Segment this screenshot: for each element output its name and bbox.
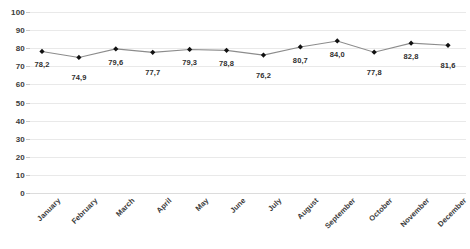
x-axis-tick-label: April [154,196,173,215]
data-point-marker [372,50,377,55]
y-axis-tick-label: 70 [16,62,25,71]
x-axis-tick-label: October [367,196,394,223]
data-point-label: 84,0 [330,50,345,59]
data-point-label: 78,8 [219,59,234,68]
x-axis-tick-label: May [193,196,210,213]
plot-area: 1009080706050403020100 78,274,979,677,77… [30,12,466,193]
data-point-label: 82,8 [404,52,419,61]
y-axis-tick-label: 10 [16,170,25,179]
y-axis-tick-label: 20 [16,152,25,161]
data-point-marker [187,47,192,52]
data-point-label: 76,2 [256,71,271,80]
data-point-marker [261,52,266,57]
data-point-marker [335,38,340,43]
series-polyline [42,41,448,57]
series-markers [39,38,450,60]
data-point-marker [224,48,229,53]
data-point-marker [150,50,155,55]
data-point-label: 81,6 [441,61,456,70]
x-axis-tick-label: July [267,196,284,213]
x-axis-tick-label: March [114,196,136,218]
data-point-marker [39,49,44,54]
y-axis-tick-label: 90 [16,26,25,35]
x-axis-tick-label: December [436,196,469,229]
y-axis-tick-label: 0 [20,189,25,198]
data-point-label: 74,9 [71,73,86,82]
x-axis-tick-label: November [399,196,432,229]
series-line [30,12,466,193]
y-axis-tick-label: 40 [16,116,25,125]
x-axis-tick-label: August [296,196,321,221]
data-point-marker [298,44,303,49]
line-chart: 1009080706050403020100 78,274,979,677,77… [0,0,470,249]
y-axis-tick-label: 80 [16,44,25,53]
y-axis-tick-label: 50 [16,98,25,107]
y-axis-tick-label: 30 [16,134,25,143]
x-axis-tick-label: June [228,196,247,215]
x-axis-tick-label: February [70,196,100,226]
y-axis-tick-label: 100 [11,8,25,17]
x-axis-tick-label: January [35,196,62,223]
data-point-label: 78,2 [35,60,50,69]
data-point-marker [408,41,413,46]
data-point-marker [76,55,81,60]
data-point-marker [445,43,450,48]
data-point-label: 77,8 [367,68,382,77]
data-point-marker [113,46,118,51]
data-point-label: 79,6 [108,58,123,67]
data-point-label: 79,3 [182,58,197,67]
data-point-label: 80,7 [293,56,308,65]
x-axis: JanuaryFebruaryMarchAprilMayJuneJulyAugu… [30,194,466,249]
data-point-label: 77,7 [145,68,160,77]
x-axis-tick-label: September [323,196,357,230]
y-axis-tick-label: 60 [16,80,25,89]
